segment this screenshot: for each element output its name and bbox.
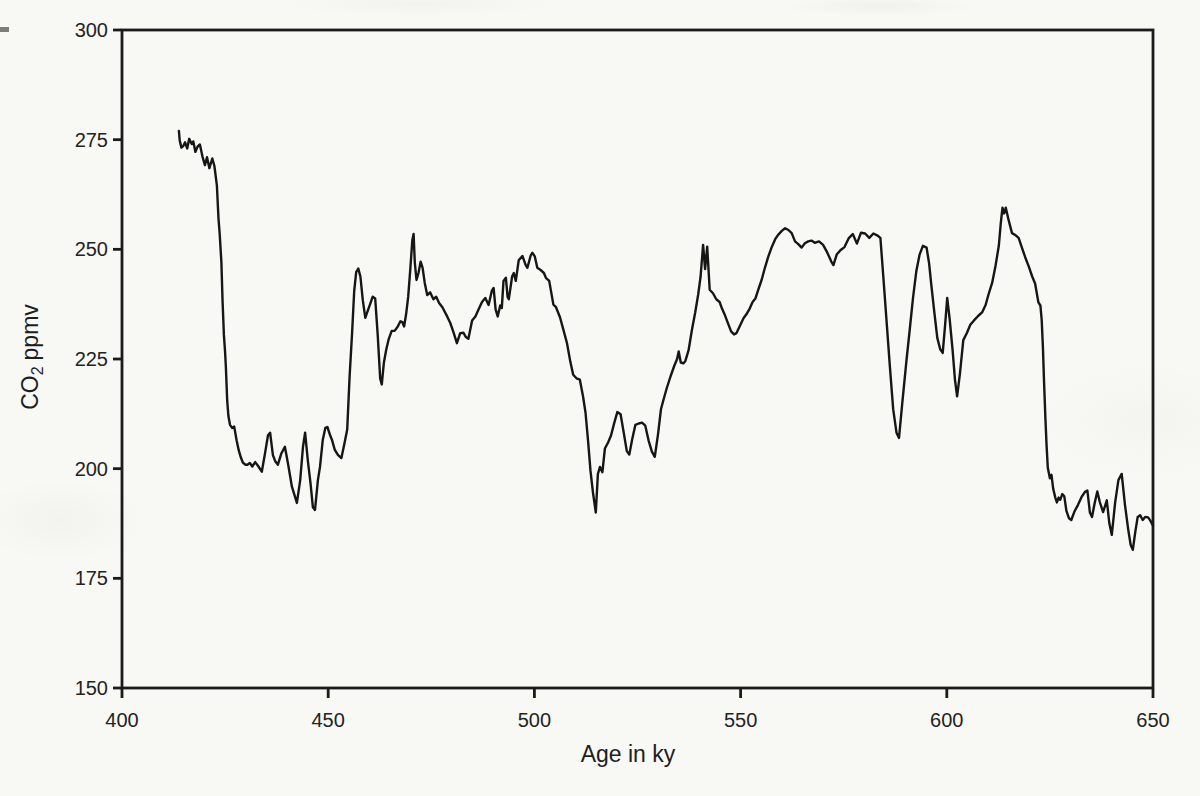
- y-tick-label: 150: [75, 677, 108, 699]
- y-tick-label: 200: [75, 458, 108, 480]
- co2-age-chart: 400450500550600650 150175200225250275300…: [0, 0, 1200, 796]
- x-axis-label: Age in ky: [581, 741, 676, 767]
- y-tick-label: 175: [75, 567, 108, 589]
- co2-curve: [179, 131, 1153, 550]
- x-tick-label: 450: [312, 709, 345, 731]
- y-axis-label-main: CO: [17, 375, 43, 410]
- y-tick-label: 275: [75, 129, 108, 151]
- x-tick-label: 650: [1136, 709, 1169, 731]
- y-axis-label-rest: ppmv: [17, 304, 43, 361]
- y-tick-label: 225: [75, 348, 108, 370]
- y-tick-label: 250: [75, 238, 108, 260]
- plot-frame: [122, 30, 1153, 688]
- y-axis-label: CO2ppmv: [17, 304, 46, 410]
- x-tick-label: 600: [930, 709, 963, 731]
- y-axis-ticks: 150175200225250275300: [75, 19, 121, 699]
- x-tick-label: 400: [105, 709, 138, 731]
- x-tick-label: 500: [518, 709, 551, 731]
- x-tick-label: 550: [724, 709, 757, 731]
- x-axis-ticks: 400450500550600650: [105, 689, 1169, 731]
- y-tick-label: 300: [75, 19, 108, 41]
- y-axis-label-subscript: 2: [29, 366, 46, 375]
- scan-artifact-dash: [0, 27, 9, 32]
- figure: 400450500550600650 150175200225250275300…: [0, 0, 1200, 796]
